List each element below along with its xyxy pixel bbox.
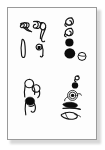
loop-with-dot-mark <box>36 44 43 57</box>
hook-loop-mark <box>20 23 31 32</box>
glyph-group-bottom-right-canvas <box>58 74 92 124</box>
spiral-hook-mark <box>65 18 74 26</box>
glyph-group-bottom-left <box>21 76 53 120</box>
glyph-group-bottom-left-canvas <box>21 76 53 120</box>
open-circle-mark <box>78 52 86 60</box>
solid-dot-mark <box>72 82 78 88</box>
concentric-spiral-mark <box>65 90 82 100</box>
glyph-group-top-right <box>58 16 91 66</box>
paper-frame <box>7 7 97 140</box>
glyph-group-top-right-canvas <box>58 16 91 66</box>
tail-stroke-mark <box>63 107 80 110</box>
tiny-hook-mark <box>75 76 80 82</box>
ring-on-stem-mark <box>24 79 34 97</box>
outlined-teardrop-mark <box>61 112 80 119</box>
glyph-group-top-left-canvas <box>18 20 52 64</box>
spiral-hook-mark <box>64 28 73 36</box>
scanned-plate-image <box>0 0 105 150</box>
filled-ring-on-stem-mark <box>25 97 35 115</box>
solid-disc-mark <box>65 39 73 47</box>
blade-stroke-mark <box>21 39 25 57</box>
glyph-group-bottom-right <box>58 74 92 124</box>
glyph-group-top-left <box>18 20 52 64</box>
solid-teardrop-mark <box>63 102 78 107</box>
solid-disc-mark <box>64 48 75 58</box>
